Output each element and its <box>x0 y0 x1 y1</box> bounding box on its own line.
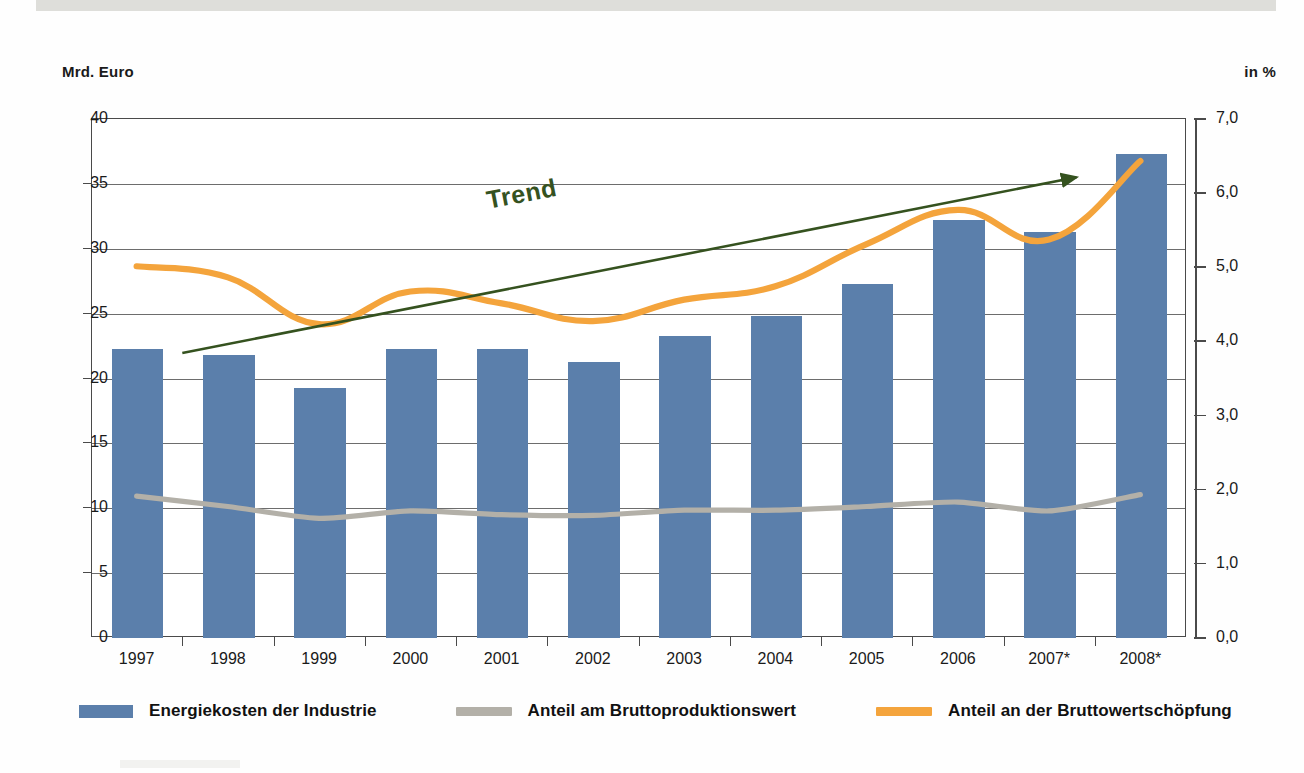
y-axis-left-tick-mark <box>83 572 91 573</box>
legend-label: Anteil an der Bruttowertschöpfung <box>948 701 1232 721</box>
y-axis-right-tick-label: 0,0 <box>1216 628 1276 646</box>
x-axis-tick-mark <box>639 637 640 646</box>
y-axis-right-tick-mark <box>1194 489 1206 491</box>
x-axis-tick-label: 2007* <box>1004 650 1095 668</box>
x-axis-tick-mark <box>274 637 275 646</box>
x-axis-tick-mark <box>182 637 183 646</box>
left-axis-unit-label: Mrd. Euro <box>62 63 134 80</box>
y-axis-left-tick-label: 20 <box>48 369 108 387</box>
y-axis-left-tick-label: 25 <box>48 304 108 322</box>
y-axis-right-tick-mark <box>1194 415 1206 417</box>
x-axis-tick-mark <box>1095 637 1096 646</box>
x-axis-tick-label: 2006 <box>912 650 1003 668</box>
x-axis-tick-mark <box>1004 637 1005 646</box>
y-axis-left-tick-label: 10 <box>48 498 108 516</box>
page-artifact <box>120 760 240 768</box>
y-axis-right-tick-label: 3,0 <box>1216 406 1276 424</box>
right-axis-spine <box>1195 118 1197 637</box>
y-axis-left-tick-label: 15 <box>48 433 108 451</box>
y-axis-left-tick-label: 30 <box>48 239 108 257</box>
x-axis-tick-mark <box>547 637 548 646</box>
x-axis-tick-mark <box>730 637 731 646</box>
x-axis-tick-label: 2004 <box>730 650 821 668</box>
x-axis-tick-mark <box>365 637 366 646</box>
y-axis-right-tick-label: 1,0 <box>1216 554 1276 572</box>
y-axis-right-tick-mark <box>1194 563 1206 565</box>
legend-item-energiekosten[interactable]: Energiekosten der Industrie <box>79 701 377 721</box>
y-axis-right-tick-label: 2,0 <box>1216 480 1276 498</box>
legend-item-bruttoproduktionswert[interactable]: Anteil am Bruttoproduktionswert <box>456 701 797 721</box>
legend-swatch-icon <box>456 707 512 716</box>
x-axis-tick-label: 1999 <box>274 650 365 668</box>
y-axis-right-tick-mark <box>1194 118 1206 120</box>
trend-arrow-layer <box>91 118 1186 637</box>
legend-swatch-icon <box>876 707 932 716</box>
y-axis-right-tick-mark <box>1194 637 1206 639</box>
legend-item-bruttowertschoepfung[interactable]: Anteil an der Bruttowertschöpfung <box>876 701 1232 721</box>
y-axis-left-tick-mark <box>83 442 91 443</box>
x-axis-tick-label: 2005 <box>821 650 912 668</box>
y-axis-right-tick-label: 5,0 <box>1216 257 1276 275</box>
x-axis-tick-label: 2000 <box>365 650 456 668</box>
y-axis-right-tick-label: 6,0 <box>1216 183 1276 201</box>
y-axis-left-tick-mark <box>83 378 91 379</box>
x-axis-tick-label: 2008* <box>1095 650 1186 668</box>
x-axis-tick-mark <box>912 637 913 646</box>
chart-figure: Mrd. Euro in % Trend Energiekosten der I… <box>0 0 1304 773</box>
x-axis-tick-label: 1997 <box>91 650 182 668</box>
legend-swatch-icon <box>79 705 133 718</box>
y-axis-right-tick-mark <box>1194 340 1206 342</box>
y-axis-left-tick-label: 5 <box>48 563 108 581</box>
y-axis-right-tick-mark <box>1194 266 1206 268</box>
y-axis-left-tick-mark <box>83 313 91 314</box>
y-axis-left-tick-mark <box>83 248 91 249</box>
y-axis-right-tick-label: 7,0 <box>1216 109 1276 127</box>
chart-legend: Energiekosten der Industrie Anteil am Br… <box>0 694 1304 728</box>
y-axis-right-tick-label: 4,0 <box>1216 331 1276 349</box>
y-axis-left-tick-label: 35 <box>48 174 108 192</box>
legend-label: Energiekosten der Industrie <box>149 701 377 721</box>
x-axis-tick-label: 1998 <box>182 650 273 668</box>
x-axis-tick-label: 2001 <box>456 650 547 668</box>
right-axis-unit-label: in % <box>1244 63 1276 80</box>
x-axis-tick-label: 2002 <box>547 650 638 668</box>
x-axis-tick-label: 2003 <box>639 650 730 668</box>
x-axis-tick-mark <box>821 637 822 646</box>
y-axis-right-tick-mark <box>1194 192 1206 194</box>
x-axis-tick-mark <box>456 637 457 646</box>
legend-label: Anteil am Bruttoproduktionswert <box>528 701 797 721</box>
y-axis-left-tick-label: 0 <box>48 628 108 646</box>
y-axis-left-tick-mark <box>83 507 91 508</box>
y-axis-left-tick-label: 40 <box>48 109 108 127</box>
y-axis-left-tick-mark <box>83 183 91 184</box>
